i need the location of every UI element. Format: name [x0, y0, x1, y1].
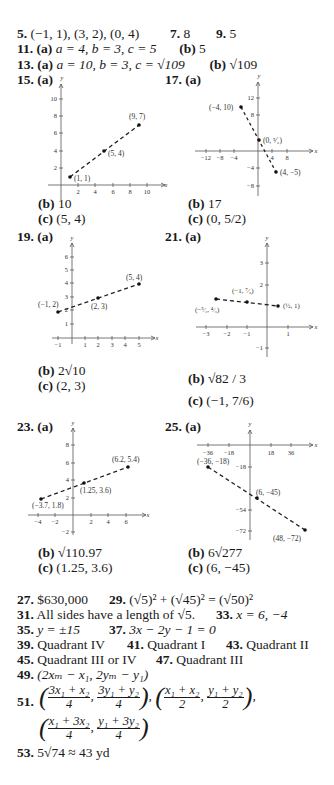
- svg-text:−36: −36: [203, 449, 214, 456]
- svg-text:(−36, −18): (−36, −18): [197, 457, 230, 466]
- answer-49: 49. (2xₘ − x₁, 2yₘ − y₁): [17, 667, 148, 682]
- answer-25-b: (b) 6√277: [188, 545, 242, 560]
- answer-53: 53. 5√74 ≈ 43 yd: [17, 745, 109, 760]
- answer-41: 41. Quadrant I: [127, 637, 205, 652]
- answer-23-b: (b) √110.97: [38, 545, 102, 560]
- answer-35: 35. y = ±15: [17, 622, 80, 637]
- svg-text:−18: −18: [236, 463, 246, 470]
- svg-text:y: y: [248, 420, 252, 427]
- answer-25-c: (c) (6, −45): [188, 560, 250, 575]
- answer-29: 29. (√5)² + (√45)² = (√50)²: [109, 592, 253, 607]
- answer-45: 45. Quadrant III or IV: [17, 652, 137, 667]
- svg-text:−18: −18: [224, 449, 234, 456]
- answer-37: 37. 3x − 2y − 1 = 0: [109, 622, 216, 637]
- svg-text:−54: −54: [236, 506, 247, 513]
- answer-33: 33. x = 6, −4: [216, 607, 287, 622]
- svg-text:18: 18: [268, 449, 275, 456]
- answer-51-row2: (x₁ + 3x₂4, y₁ + 3y₂4): [39, 713, 149, 743]
- answer-47: 47. Quadrant III: [156, 652, 243, 667]
- svg-text:(6, −45): (6, −45): [256, 488, 281, 497]
- answer-23-c: (c) (1.25, 3.6): [38, 560, 113, 575]
- svg-text:36: 36: [288, 449, 295, 456]
- answer-39: 39. Quadrant IV: [17, 637, 105, 652]
- answer-43: 43. Quadrant II: [226, 637, 309, 652]
- svg-text:(48, −72): (48, −72): [273, 534, 301, 543]
- answer-51-row1: (3x₁ + x₂4, 3y₁ + y₂4), (x₁ + x₂2, y₁ + …: [39, 682, 256, 712]
- svg-text:−72: −72: [236, 527, 246, 534]
- svg-text:x: x: [314, 441, 318, 448]
- answer-31: 31. All sides have a length of √5.: [17, 607, 195, 622]
- answer-27: 27. $630,000: [17, 592, 88, 607]
